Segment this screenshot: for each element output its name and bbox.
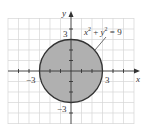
leader-line <box>95 37 106 50</box>
circle-graph: y x 3 −3 −3 3 x2 + y2 = 9 <box>0 0 149 135</box>
x-arrow-icon <box>134 69 140 74</box>
y-axis-label: y <box>61 8 66 18</box>
tick-label-x-pos: 3 <box>105 75 110 85</box>
equation-label: x2 + y2 = 9 <box>83 26 122 37</box>
tick-label-x-neg: −3 <box>26 75 36 85</box>
tick-label-y-neg: −3 <box>57 104 67 114</box>
x-axis-label: x <box>135 74 140 84</box>
tick-label-y-pos: 3 <box>63 29 68 39</box>
y-arrow-icon <box>69 11 74 17</box>
